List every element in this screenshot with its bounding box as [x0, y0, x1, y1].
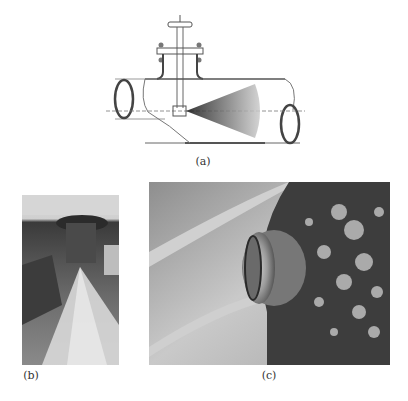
caption-a: (a): [183, 155, 223, 168]
nozzle-head-photo: [149, 182, 390, 365]
caption-c: (c): [249, 369, 289, 382]
nozzle-spray-photo: [22, 195, 119, 365]
panel-a-diagram: [100, 0, 320, 148]
spray-nozzle-diagram: [100, 0, 320, 148]
panel-b-photo: [22, 195, 119, 365]
caption-b: (b): [11, 369, 51, 382]
panel-c-photo: [149, 182, 390, 365]
